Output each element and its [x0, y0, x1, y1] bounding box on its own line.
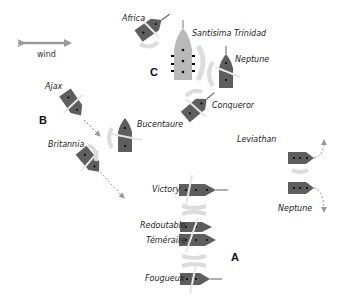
- ship-label-britannia: Britannia: [48, 140, 84, 149]
- battle-diagram: wind C B A Africa Santisima Trinidad Nep…: [0, 0, 337, 301]
- ship-label-victory: Victory: [152, 185, 180, 194]
- ship-leviathan-icon: [288, 140, 324, 172]
- ship-label-temeraire: Téméraire: [146, 236, 186, 245]
- ship-label-redoutable: Redoutable: [140, 221, 186, 230]
- ship-label-neptune-top: Neptune: [235, 55, 269, 64]
- wind-arrow-icon: [18, 39, 72, 47]
- ship-label-bucentaure: Bucentaure: [137, 120, 183, 129]
- ship-africa-icon: [132, 4, 177, 45]
- ship-label-conqueror: Conqueror: [212, 101, 254, 110]
- ship-label-fougueux: Fougueux: [145, 274, 184, 283]
- ship-label-ajax: Ajax: [45, 82, 62, 91]
- group-label-a: A: [231, 251, 239, 263]
- ship-temeraire-icon: [179, 212, 216, 258]
- ship-label-leviathan: Leviathan: [237, 135, 276, 144]
- group-label-c: C: [150, 66, 158, 78]
- ship-neptune-top-icon: [209, 46, 240, 88]
- ship-label-neptune-right: Neptune: [278, 204, 312, 213]
- ship-fougueux-icon: [180, 264, 222, 294]
- ship-label-santisima-trinidad: Santisima Trinidad: [192, 29, 266, 38]
- ship-victory-icon: [179, 175, 228, 208]
- group-label-b: B: [39, 114, 47, 126]
- wind-label: wind: [37, 50, 56, 59]
- ship-label-africa: Africa: [122, 14, 145, 23]
